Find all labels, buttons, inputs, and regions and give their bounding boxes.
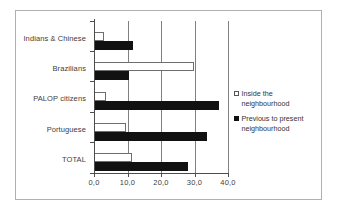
x-axis-label-20: 20,0: [153, 178, 168, 187]
legend-label-inside: Inside the neighbourhood: [242, 89, 321, 108]
x-axis-label-0: 0,0: [88, 178, 99, 187]
x-tick-20: [161, 173, 162, 177]
bar-inside-1: [94, 62, 194, 71]
category-tick-3: [90, 112, 94, 113]
category-label-3: Portuguese: [47, 125, 86, 134]
chart-legend: Inside the neighbourhood Previous to pre…: [234, 89, 320, 139]
category-tick-2: [90, 81, 94, 82]
x-tick-0: [94, 173, 95, 177]
bar-previous-4: [94, 162, 188, 171]
bar-previous-2: [94, 101, 219, 110]
category-label-1: Brazilians: [52, 64, 86, 73]
filled-square-icon: [234, 116, 239, 121]
bar-inside-0: [94, 32, 104, 41]
x-axis-label-30: 30,0: [187, 178, 202, 187]
category-tick-1: [90, 51, 94, 52]
bar-inside-2: [94, 92, 106, 101]
legend-item-previous: Previous to present neighbourhood: [234, 114, 320, 133]
x-axis-label-10: 10,0: [120, 178, 135, 187]
plot-area: [94, 21, 228, 173]
gridline-40: [228, 21, 229, 173]
legend-item-inside: Inside the neighbourhood: [234, 89, 320, 108]
legend-label-previous: Previous to present neighbourhood: [242, 114, 321, 133]
x-tick-10: [128, 173, 129, 177]
bar-previous-3: [94, 132, 207, 141]
x-tick-40: [228, 173, 229, 177]
bar-previous-0: [94, 41, 133, 50]
bar-previous-1: [94, 71, 129, 80]
x-axis-label-40: 40,0: [220, 178, 235, 187]
gridline-20: [161, 21, 162, 173]
category-label-4: TOTAL: [62, 155, 86, 164]
bar-inside-3: [94, 123, 126, 132]
y-axis-line: [94, 19, 95, 175]
bar-inside-4: [94, 153, 132, 162]
category-label-2: PALOP citizens: [33, 94, 86, 103]
gridline-30: [195, 21, 196, 173]
hollow-square-icon: [234, 91, 239, 96]
category-label-0: Indians & Chinese: [23, 34, 86, 43]
x-tick-30: [195, 173, 196, 177]
category-tick-0: [90, 21, 94, 22]
chart-frame: Indians & Chinese Brazilians PALOP citiz…: [15, 10, 322, 200]
category-tick-4: [90, 142, 94, 143]
